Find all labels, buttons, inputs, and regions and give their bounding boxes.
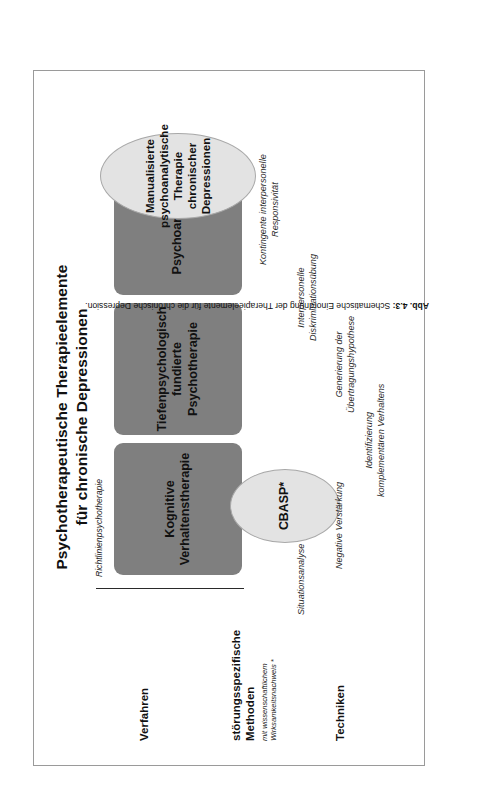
figure-caption-number: Abb. 4.3:: [393, 301, 429, 311]
figure-frame: Psychotherapeutische Therapieelemente fü…: [33, 70, 425, 766]
figure-title: Psychotherapeutische Therapieelemente fü…: [52, 69, 91, 765]
row-label-methoden-text: störungsspezifische Methoden: [230, 621, 258, 741]
figure-rotation-stage: Psychotherapeutische Therapieelemente fü…: [33, 26, 463, 766]
technik-label-negative-verstaerkung: Negative Verstärkung: [334, 482, 346, 569]
verfahren-box-kognitive-verhaltenstherapie[interactable]: Kognitive Verhaltenstherapie: [114, 443, 242, 575]
row-label-verfahren: Verfahren: [138, 688, 152, 741]
richtlinienpsychotherapie-bracket: [96, 588, 244, 589]
row-label-techniken: Techniken: [334, 685, 348, 741]
technik-label-generierung-uebertragungshypothese: Generierung der Übertragungshypothese: [334, 316, 358, 413]
richtlinienpsychotherapie-label: Richtlinienpsychotherapie: [94, 479, 104, 577]
methode-ellipse-cbasp[interactable]: CBASP*: [230, 469, 340, 543]
verfahren-box-tiefenpsychologisch-fundierte-psychotherapie[interactable]: Tiefenpsychologisch fundierte Psychother…: [114, 303, 242, 435]
technik-label-kontingente-interpersonelle-responsivitaet: Kontingente interpersonelle Responsivitä…: [258, 154, 282, 265]
row-label-methoden-subtitle: mit wissenschaftlichem Wirksamkeitsnachw…: [260, 621, 279, 741]
technik-label-identifizierung-komplementaeren-verhaltens: Identifizierung komplementären Verhalten…: [364, 384, 388, 497]
methode-ellipse-manualisierte-psychoanalytische-therapie[interactable]: Manualisierte psychoanalytische Therapie…: [100, 133, 256, 219]
row-label-methoden: störungsspezifische Methoden mit wissens…: [230, 621, 279, 741]
figure-caption-text: Schematische Einordnung der Therapieelem…: [85, 301, 390, 311]
figure-caption: Abb. 4.3: Schematische Einordnung der Th…: [85, 301, 429, 311]
technik-label-situationsanalyse: Situationsanalyse: [296, 544, 308, 615]
technik-label-interpersonelle-diskriminationsuebung: Interpersonelle Diskriminationsübung: [296, 254, 320, 341]
